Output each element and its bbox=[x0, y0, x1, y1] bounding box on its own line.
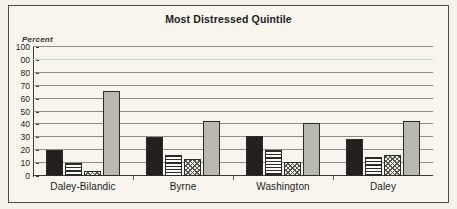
bar[interactable] bbox=[346, 139, 363, 176]
bar[interactable] bbox=[103, 91, 120, 176]
y-tick-label: 40 bbox=[4, 120, 30, 129]
bar[interactable] bbox=[65, 163, 82, 176]
bar[interactable] bbox=[165, 155, 182, 176]
bar-group bbox=[46, 47, 120, 176]
category-divider bbox=[233, 176, 234, 180]
chart-title: Most Distressed Quintile bbox=[9, 13, 448, 25]
bar[interactable] bbox=[146, 137, 163, 176]
y-tick-label: 80 bbox=[4, 68, 30, 77]
bar[interactable] bbox=[403, 121, 420, 176]
bar[interactable] bbox=[46, 150, 63, 176]
y-axis-tick-labels: 1000080706050403020100 bbox=[3, 47, 30, 176]
bar[interactable] bbox=[203, 121, 220, 176]
category-label: Washington bbox=[233, 181, 333, 192]
y-tick-label: 70 bbox=[4, 81, 30, 90]
bar[interactable] bbox=[184, 159, 201, 176]
bar[interactable] bbox=[284, 162, 301, 176]
bar[interactable] bbox=[384, 155, 401, 176]
y-tick-label: 50 bbox=[4, 107, 30, 116]
scanned-page: Most Distressed Quintile Percent 1000080… bbox=[0, 0, 457, 209]
bar[interactable] bbox=[84, 171, 101, 176]
y-tick-label: 60 bbox=[4, 94, 30, 103]
y-tick-label: 20 bbox=[4, 146, 30, 155]
plot-area bbox=[33, 47, 433, 176]
y-tick-mark bbox=[36, 176, 39, 177]
category-label: Daley-Bilandic bbox=[33, 181, 133, 192]
bar-group bbox=[346, 47, 420, 176]
bar[interactable] bbox=[246, 136, 263, 176]
bar-group bbox=[146, 47, 220, 176]
category-label: Daley bbox=[333, 181, 433, 192]
y-tick-label: 0 bbox=[4, 172, 30, 181]
x-axis-category-labels: Daley-BilandicByrneWashingtonDaley bbox=[33, 181, 433, 197]
y-tick-label: 100 bbox=[4, 43, 30, 52]
bar[interactable] bbox=[365, 157, 382, 176]
bar[interactable] bbox=[265, 150, 282, 176]
category-label: Byrne bbox=[133, 181, 233, 192]
bar[interactable] bbox=[303, 123, 320, 176]
category-divider bbox=[133, 176, 134, 180]
y-tick-label: 10 bbox=[4, 159, 30, 168]
y-tick-label: 30 bbox=[4, 133, 30, 142]
category-divider bbox=[333, 176, 334, 180]
bar-group bbox=[246, 47, 320, 176]
y-tick-label: 00 bbox=[4, 55, 30, 64]
